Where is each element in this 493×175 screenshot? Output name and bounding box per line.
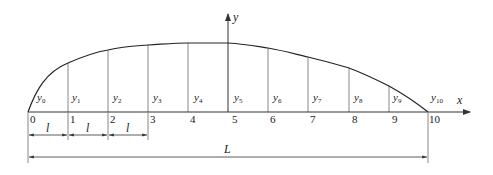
waterplane-diagram: y x 0 1 2 3 4 5 6 7 8 9 10 y0 y1 y2 y3 y…	[0, 0, 493, 175]
ordinate-label: y8	[353, 91, 363, 105]
ordinate-label: y3	[152, 91, 162, 105]
station-label: 1	[70, 113, 76, 125]
total-length-label: L	[223, 142, 231, 156]
x-axis-label: x	[456, 93, 463, 107]
ordinate-label: y4	[193, 91, 203, 105]
spacing-label: l	[86, 121, 90, 135]
station-label: 0	[30, 113, 36, 125]
spacing-labels: l l l	[46, 121, 130, 135]
station-labels: 0 1 2 3 4 5 6 7 8 9 10	[30, 113, 441, 125]
station-label: 10	[429, 113, 441, 125]
ordinate-label: y2	[112, 91, 122, 105]
spacing-label: l	[126, 121, 130, 135]
station-label: 4	[190, 113, 196, 125]
y-axis-label: y	[232, 10, 239, 24]
ordinate-label: y7	[312, 91, 322, 105]
ordinate-label: y6	[272, 91, 282, 105]
ordinate-labels: y0 y1 y2 y3 y4 y5 y6 y7 y8 y9 y10	[36, 91, 443, 105]
station-label: 5	[232, 113, 238, 125]
station-label: 9	[392, 113, 398, 125]
station-label: 7	[310, 113, 316, 125]
ordinate-label: y0	[36, 91, 46, 105]
ordinate-label: y5	[233, 91, 243, 105]
station-label: 3	[150, 113, 156, 125]
ordinate-label: y1	[71, 91, 81, 105]
station-label: 2	[110, 113, 116, 125]
spacing-label: l	[46, 121, 50, 135]
station-label: 8	[352, 113, 358, 125]
ordinate-label: y10	[430, 91, 443, 105]
station-label: 6	[270, 113, 276, 125]
